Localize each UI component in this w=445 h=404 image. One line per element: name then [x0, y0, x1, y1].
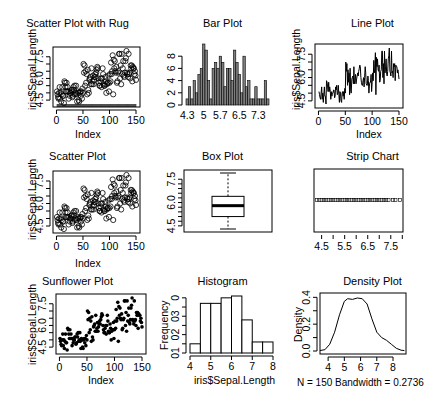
svg-text:0: 0	[54, 114, 60, 126]
panel-title-histogram: Histogram	[165, 275, 280, 287]
ylabel-p4: iris$Sepal.Length	[26, 159, 38, 240]
svg-text:8: 8	[390, 361, 396, 373]
ylabel-p7: iris$Sepal.Length	[26, 284, 38, 365]
svg-text:150: 150	[127, 240, 145, 252]
svg-text:6: 6	[358, 361, 364, 373]
svg-text:100: 100	[101, 114, 119, 126]
svg-text:2: 2	[165, 90, 177, 96]
svg-text:4.3: 4.3	[180, 109, 195, 121]
svg-text:4.5: 4.5	[314, 240, 329, 252]
svg-text:0: 0	[169, 295, 181, 301]
scatter-rug-plot-area: 0501001504.56.07.5	[33, 47, 145, 126]
panel-title-strip-chart: Strip Chart	[315, 150, 430, 162]
svg-text:50: 50	[77, 114, 89, 126]
svg-text:6.5: 6.5	[232, 109, 247, 121]
xlabel-p7: Index	[88, 374, 114, 386]
ylabel-p1: iris$Sepal.Length	[26, 29, 38, 110]
svg-text:6: 6	[165, 65, 177, 71]
svg-text:4.5: 4.5	[165, 218, 177, 233]
ylabel-p2-right: iris$Sepal.Length	[290, 29, 302, 110]
svg-text:100: 100	[106, 361, 124, 373]
svg-text:0: 0	[165, 102, 177, 108]
svg-text:5: 5	[201, 109, 207, 121]
svg-text:5.5: 5.5	[337, 240, 352, 252]
density-annotation: N = 150 Bandwidth = 0.2736	[297, 377, 424, 388]
histogram-area: 456780102030	[169, 295, 276, 372]
xlabel-p1: Index	[75, 128, 101, 140]
svg-text:01: 01	[169, 347, 181, 359]
svg-text:4: 4	[165, 78, 177, 84]
svg-text:5: 5	[341, 361, 347, 373]
svg-text:7: 7	[249, 360, 255, 372]
panel-title-density: Density Plot	[315, 275, 430, 287]
svg-text:0: 0	[54, 240, 60, 252]
svg-text:8: 8	[165, 53, 177, 59]
svg-text:150: 150	[127, 114, 145, 126]
svg-text:50: 50	[77, 240, 89, 252]
bar-plot-area: 4.355.76.57.302468	[165, 44, 269, 121]
ylabel-p9: Density	[292, 307, 304, 342]
svg-text:0.4: 0.4	[300, 290, 312, 305]
strip-chart-area: 4.55.56.57.5	[314, 169, 403, 252]
panel-title-bar-plot: Bar Plot	[165, 17, 280, 29]
svg-text:150: 150	[133, 361, 151, 373]
xlabel-p8: iris$Sepal.Length	[194, 374, 275, 386]
ylabel-p8: Frequency	[158, 300, 170, 350]
xlabel-p3: Index	[356, 128, 382, 140]
scatter-plot-area: 0501001504.56.07.5	[33, 171, 145, 252]
panel-title-line-plot: Line Plot	[315, 17, 430, 29]
box-plot-area: 4.56.07.5	[165, 170, 272, 233]
svg-text:8: 8	[270, 360, 276, 372]
line-plot-area: 0501001504.56.07.5	[295, 44, 408, 127]
svg-text:0.0: 0.0	[300, 344, 312, 359]
panel-title-box-plot: Box Plot	[165, 150, 280, 162]
svg-text:6.0: 6.0	[165, 195, 177, 210]
sunflower-plot-area: 0501001504.56.07.5	[36, 294, 151, 373]
density-plot-area: 456780.00.20.4	[300, 290, 406, 373]
svg-text:7.5: 7.5	[165, 172, 177, 187]
svg-text:6: 6	[229, 360, 235, 372]
svg-text:5: 5	[208, 360, 214, 372]
svg-text:7.5: 7.5	[383, 240, 398, 252]
chart-canvas: 0501001504.56.07.5 4.355.76.57.302468 05…	[0, 0, 445, 404]
xlabel-p4: Index	[75, 257, 101, 269]
svg-text:4: 4	[325, 361, 331, 373]
panel-title-scatter-rug: Scatter Plot with Rug	[15, 17, 140, 29]
svg-text:0: 0	[57, 361, 63, 373]
svg-text:0: 0	[316, 115, 322, 127]
svg-text:100: 100	[101, 240, 119, 252]
svg-text:6.5: 6.5	[360, 240, 375, 252]
svg-text:7.3: 7.3	[251, 109, 266, 121]
svg-text:150: 150	[390, 115, 408, 127]
svg-text:02: 02	[169, 329, 181, 341]
svg-text:5.7: 5.7	[213, 109, 228, 121]
svg-text:100: 100	[363, 115, 381, 127]
svg-text:50: 50	[81, 361, 93, 373]
svg-text:50: 50	[339, 115, 351, 127]
svg-text:7: 7	[374, 361, 380, 373]
svg-text:4: 4	[187, 360, 193, 372]
svg-text:03: 03	[169, 310, 181, 322]
